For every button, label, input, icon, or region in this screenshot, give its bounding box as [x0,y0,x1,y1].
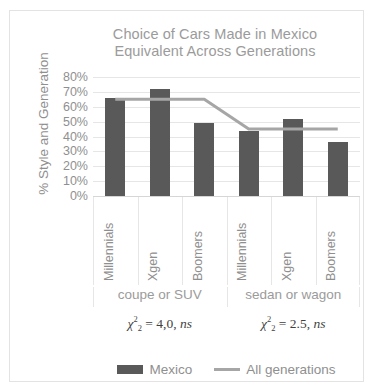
y-axis-tick-label: 30% [63,144,88,158]
x-axis-group-labels: coupe or SUVsedan or wagon [93,287,360,307]
x-axis-category-cell: Xgen [271,197,316,285]
y-axis-tick-label: 50% [63,115,88,129]
x-axis-group-label: sedan or wagon [227,287,361,302]
x-axis-category-cell: Xgen [138,197,183,285]
y-axis-tick-label: 10% [63,174,88,188]
statistical-annotations: χ22 = 4,0, nsχ22 = 2.5, ns [93,314,360,336]
chart-legend: MexicoAll generations [93,359,360,379]
legend-bar-swatch-icon [117,365,143,374]
y-axis-tick-labels: 80%70%60%50%40%30%20%10%0% [46,77,88,196]
x-axis-category-cell: Millennials [93,197,138,285]
x-axis-category-label: Millennials [102,223,116,281]
legend-entry[interactable]: All generations [214,362,335,377]
chart-frame: Choice of Cars Made in Mexico Equivalent… [9,10,364,382]
x-axis-category-label: Millennials [235,223,249,281]
y-axis-tick-label: 40% [63,130,88,144]
x-axis-category-label: Xgen [146,252,160,281]
line-path [115,99,338,129]
legend-line-swatch-icon [214,368,240,371]
y-axis-tick-label: 0% [70,189,88,203]
legend-label: Mexico [149,362,192,377]
chi-square-annotation: χ22 = 4,0, ns [93,314,227,333]
x-axis-category-labels: MillennialsXgenBoomersMillennialsXgenBoo… [93,197,360,285]
y-axis-tick-label: 60% [63,100,88,114]
chart-title: Choice of Cars Made in Mexico Equivalent… [70,26,360,60]
chi-square-annotation: χ22 = 2.5, ns [227,314,361,333]
line-series-all-generations [93,77,360,196]
x-axis-category-cell: Boomers [182,197,227,285]
x-axis-category-label: Boomers [191,231,205,281]
chart-title-line-2: Equivalent Across Generations [70,43,360,60]
chart-title-line-1: Choice of Cars Made in Mexico [70,26,360,43]
x-axis-group-label: coupe or SUV [93,287,227,302]
y-axis-tick-label: 20% [63,159,88,173]
legend-entry[interactable]: Mexico [117,362,192,377]
y-axis-tick-label: 70% [63,85,88,99]
x-axis-category-cell: Boomers [316,197,361,285]
x-axis-category-cell: Millennials [227,197,272,285]
x-axis-category-label: Xgen [280,252,294,281]
x-axis-category-label: Boomers [324,231,338,281]
y-axis-tick-label: 80% [63,70,88,84]
legend-label: All generations [246,362,335,377]
